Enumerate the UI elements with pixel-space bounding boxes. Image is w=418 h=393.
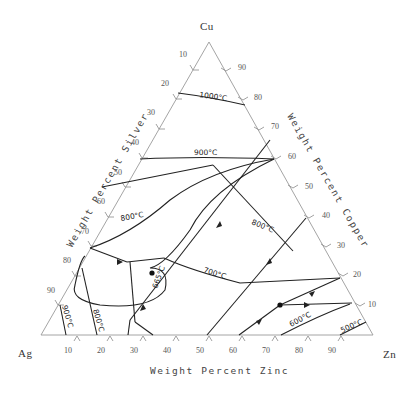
eutectic-point [277, 302, 282, 307]
left-tick-80: 80 [63, 256, 71, 265]
right-tick-40: 40 [322, 211, 330, 220]
left-tick-40: 40 [131, 138, 139, 147]
left-tick-70: 70 [81, 227, 89, 236]
bottom-tick-80: 80 [295, 346, 303, 355]
right-tick-10: 10 [368, 300, 376, 309]
right-ticks [221, 68, 365, 306]
bottom-tick-70: 70 [262, 346, 270, 355]
left-tick-50: 50 [114, 168, 122, 177]
right-tick-20: 20 [353, 270, 361, 279]
bottom-tick-40: 40 [163, 346, 171, 355]
left-tick-30: 30 [147, 108, 155, 117]
left-tick-20: 20 [161, 79, 169, 88]
triangle-outline [41, 42, 373, 335]
axis-title-copper: Weight Percent Copper [285, 112, 371, 251]
bottom-tick-90: 90 [328, 346, 336, 355]
label-800c-right: 800°C [250, 218, 275, 235]
right-tick-60: 60 [288, 152, 296, 161]
right-tick-70: 70 [271, 122, 279, 131]
left-tick-60: 60 [97, 197, 105, 206]
left-tick-90: 90 [47, 286, 55, 295]
label-900c: 900°C [194, 148, 217, 157]
bottom-tick-50: 50 [196, 346, 204, 355]
corner-ag: Ag [18, 347, 32, 359]
right-tick-30: 30 [337, 241, 345, 250]
bottom-tick-60: 60 [229, 346, 237, 355]
bottom-tick-20: 20 [97, 346, 105, 355]
right-tick-90: 90 [238, 63, 246, 72]
bottom-ticks [74, 336, 344, 341]
label-800c-left: 800°C [120, 210, 145, 223]
bottom-tick-10: 10 [64, 346, 72, 355]
label-700c: 700°C [202, 265, 227, 281]
left-tick-10: 10 [179, 50, 187, 59]
bottom-tick-30: 30 [130, 346, 138, 355]
corner-cu: Cu [200, 20, 214, 32]
axis-title-zinc: Weight Percent Zinc [150, 365, 289, 376]
label-1000c: 1000°C [199, 90, 228, 103]
right-tick-80: 80 [254, 93, 262, 102]
right-tick-50: 50 [305, 182, 313, 191]
label-500c: 500°C [339, 317, 364, 335]
ternary-diagram: Cu Ag Zn Weight Percent Silver Weight Pe… [0, 0, 418, 393]
corner-zn: Zn [383, 348, 396, 360]
